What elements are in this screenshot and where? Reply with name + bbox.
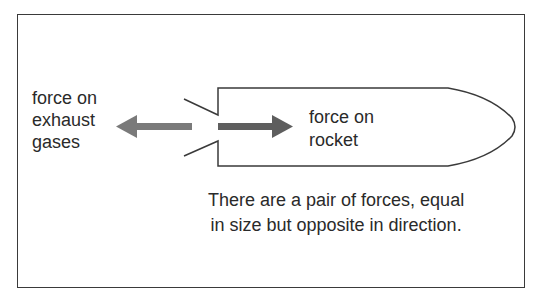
rocket-force-label: force on rocket bbox=[309, 106, 374, 152]
rocket-label-line-1: force on bbox=[309, 106, 374, 129]
exhaust-force-label: force on exhaust gases bbox=[32, 87, 97, 153]
exhaust-label-line-3: gases bbox=[32, 131, 97, 153]
exhaust-force-arrow bbox=[116, 115, 192, 138]
rocket-label-line-2: rocket bbox=[309, 129, 374, 152]
rocket-force-arrow bbox=[218, 115, 293, 138]
caption: There are a pair of forces, equal in siz… bbox=[208, 188, 464, 238]
caption-line-1: There are a pair of forces, equal bbox=[208, 188, 464, 213]
exhaust-label-line-2: exhaust bbox=[32, 109, 97, 131]
exhaust-label-line-1: force on bbox=[32, 87, 97, 109]
caption-line-2: in size but opposite in direction. bbox=[208, 213, 464, 238]
